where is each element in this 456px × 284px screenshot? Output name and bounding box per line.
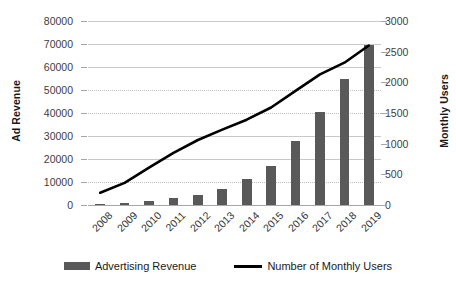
y-axis-right-tickmark bbox=[381, 113, 387, 114]
y-axis-left-tickmark bbox=[81, 44, 87, 45]
y-axis-right-tick-label: 500 bbox=[385, 169, 403, 179]
y-axis-right-tick-label: 1500 bbox=[385, 108, 408, 118]
legend-label-number-of-monthly-users: Number of Monthly Users bbox=[267, 260, 392, 272]
y-axis-right-tick-label: 3000 bbox=[385, 16, 408, 26]
y-axis-left-tick-label: 60000 bbox=[44, 62, 73, 72]
y-axis-left-tickmark bbox=[81, 21, 87, 22]
y-axis-right-tickmark bbox=[381, 82, 387, 83]
plot-area bbox=[88, 21, 381, 205]
y-axis-left-tickmark bbox=[81, 136, 87, 137]
line-series-number-of-monthly-users bbox=[88, 21, 381, 205]
y-axis-right-title: Monthly Users bbox=[438, 62, 450, 160]
legend-item-advertising-revenue: Advertising Revenue bbox=[64, 260, 197, 272]
chart-legend: Advertising Revenue Number of Monthly Us… bbox=[0, 255, 456, 277]
y-axis-right-tickmark bbox=[381, 174, 387, 175]
y-axis-right-tickmark bbox=[381, 52, 387, 53]
y-axis-left-tick-label: 40000 bbox=[44, 108, 73, 118]
y-axis-right-ticks: 050010001500200025003000 bbox=[385, 0, 425, 284]
legend-item-number-of-monthly-users: Number of Monthly Users bbox=[234, 260, 392, 272]
y-axis-left-tickmark bbox=[81, 182, 87, 183]
y-axis-left-ticks: 0100002000030000400005000060000700008000… bbox=[20, 0, 73, 284]
y-axis-left-tick-label: 20000 bbox=[44, 154, 73, 164]
y-axis-left-tickmark bbox=[81, 205, 87, 206]
y-axis-right-tickmark bbox=[381, 144, 387, 145]
y-axis-left-tick-label: 80000 bbox=[44, 16, 73, 26]
y-axis-left-tick-label: 10000 bbox=[44, 177, 73, 187]
bar-swatch-icon bbox=[64, 262, 90, 270]
y-axis-left-tick-label: 30000 bbox=[44, 131, 73, 141]
y-axis-right-tick-label: 2000 bbox=[385, 77, 408, 87]
y-axis-right-tick-label: 1000 bbox=[385, 139, 408, 149]
y-axis-left-tick-label: 0 bbox=[67, 200, 73, 210]
line-swatch-icon bbox=[234, 265, 262, 268]
y-axis-right-tick-label: 2500 bbox=[385, 47, 408, 57]
legend-label-advertising-revenue: Advertising Revenue bbox=[95, 260, 197, 272]
y-axis-right-tickmark bbox=[381, 21, 387, 22]
y-axis-right-tickmark bbox=[381, 205, 387, 206]
y-axis-left-tickmark bbox=[81, 67, 87, 68]
revenue-users-combo-chart: Ad Revenue Monthly Users 010000200003000… bbox=[0, 0, 456, 284]
y-axis-left-tick-label: 50000 bbox=[44, 85, 73, 95]
y-axis-left-tickmark bbox=[81, 159, 87, 160]
y-axis-left-tick-label: 70000 bbox=[44, 39, 73, 49]
y-axis-left-tickmark bbox=[81, 113, 87, 114]
x-axis-line bbox=[88, 205, 381, 206]
y-axis-left-tickmark bbox=[81, 90, 87, 91]
